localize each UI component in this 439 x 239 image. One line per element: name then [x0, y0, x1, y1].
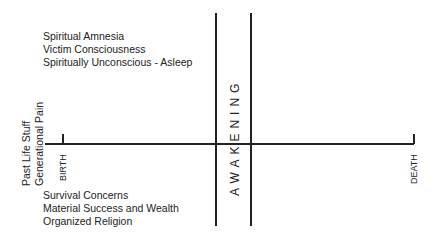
- death-label: DEATH: [409, 154, 419, 184]
- lower-notes: Survival Concerns Material Success and W…: [43, 189, 179, 228]
- awakening-left-line: [215, 13, 217, 226]
- note-line: Material Success and Wealth: [43, 202, 179, 215]
- side-label-line: Past Life Stuff: [20, 102, 33, 186]
- side-label: Past Life Stuff Generational Pain: [20, 102, 46, 186]
- note-line: Spiritually Unconscious - Asleep: [43, 56, 192, 69]
- note-line: Spiritual Amnesia: [43, 30, 192, 43]
- upper-notes: Spiritual Amnesia Victim Consciousness S…: [43, 30, 192, 69]
- awakening-label: AWAKENING: [228, 79, 242, 196]
- birth-tick: [62, 134, 64, 144]
- note-line: Survival Concerns: [43, 189, 179, 202]
- awakening-right-line: [250, 13, 252, 226]
- birth-label: BIRTH: [58, 154, 68, 181]
- note-line: Victim Consciousness: [43, 43, 192, 56]
- note-line: Organized Religion: [43, 215, 179, 228]
- death-tick: [413, 134, 415, 144]
